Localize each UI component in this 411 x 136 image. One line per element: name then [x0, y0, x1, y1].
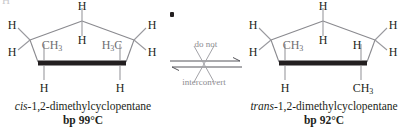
cis-label-right-upper: H	[148, 19, 157, 31]
cis-label-front-right-h: H	[116, 82, 125, 94]
trans-skeleton	[243, 0, 411, 100]
trans-label-front-right-methyl: CH3	[353, 82, 374, 94]
cis-caption: cis-1,2-dimethylcyclopentane	[15, 100, 151, 113]
cis-label-left-lower: H	[8, 46, 17, 58]
cis-methyl-right-text: H3C	[102, 38, 123, 52]
forward-arrow	[170, 58, 240, 62]
cis-bp-label: bp 99°C	[63, 114, 103, 127]
trans-left-substituents	[259, 28, 271, 50]
cis-label-front-right-methyl: H3C	[102, 39, 123, 51]
trans-label-front-left-h: H	[281, 82, 290, 94]
cis-structure: H H H H H H CH3 H3C H H	[0, 0, 170, 100]
cis-right-substituents	[134, 28, 146, 50]
trans-label-left-lower: H	[249, 46, 258, 58]
cis-left-substituents	[18, 28, 30, 50]
cis-name-rest: -1,2-dimethylcyclopentane	[28, 100, 152, 112]
cis-methyl-left-text: CH3	[42, 38, 63, 52]
trans-bp-label: bp 92°C	[304, 114, 344, 127]
trans-structure: H H H H H H CH3 H H CH3	[243, 0, 411, 100]
trans-label-top-up: H	[319, 0, 328, 12]
trans-label-front-right-h: H	[353, 39, 362, 51]
arrow-note-top: do not	[195, 39, 218, 49]
trans-label-left-upper: H	[249, 19, 258, 31]
cis-label-left-upper: H	[8, 19, 17, 31]
cis-label-top-up: H	[78, 0, 87, 12]
trans-name-rest: -1,2-dimethylcyclopentane	[274, 100, 398, 112]
cis-skeleton	[0, 0, 170, 100]
trans-label-right-upper: H	[389, 19, 398, 31]
trans-caption: trans-1,2-dimethylcyclopentane	[250, 100, 397, 113]
trans-name-prefix: trans	[250, 100, 274, 112]
trans-methyl-left-text: CH3	[283, 38, 304, 52]
bullet-dot	[170, 12, 174, 17]
cis-name-prefix: cis	[15, 100, 28, 112]
cis-label-front-left-h: H	[40, 82, 49, 94]
figure-canvas: H	[0, 0, 411, 136]
trans-right-substituents	[375, 28, 387, 50]
cis-label-front-left-methyl: CH3	[42, 39, 63, 51]
trans-label-top-down: H	[319, 34, 328, 46]
cis-label-top-down: H	[78, 34, 87, 46]
trans-label-front-left-methyl: CH3	[283, 39, 304, 51]
trans-label-right-lower: H	[389, 46, 398, 58]
cis-label-right-lower: H	[148, 46, 157, 58]
trans-methyl-bottom-text: CH3	[353, 81, 374, 95]
arrow-note-bottom: interconvert	[182, 77, 225, 87]
